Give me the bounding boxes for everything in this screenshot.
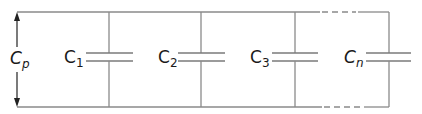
capacitor-cn xyxy=(366,12,411,107)
capacitor-c2 xyxy=(178,12,225,107)
label-c1: C1 xyxy=(64,47,84,70)
label-c3: C3 xyxy=(250,47,270,70)
label-cp: Cp xyxy=(10,48,30,71)
circuit-diagram: Cp C1 C2 C3 Cn xyxy=(0,0,422,114)
label-c2: C2 xyxy=(158,47,178,70)
capacitor-c1 xyxy=(86,12,133,107)
label-cn: Cn xyxy=(344,47,363,70)
capacitor-c3 xyxy=(272,12,318,107)
